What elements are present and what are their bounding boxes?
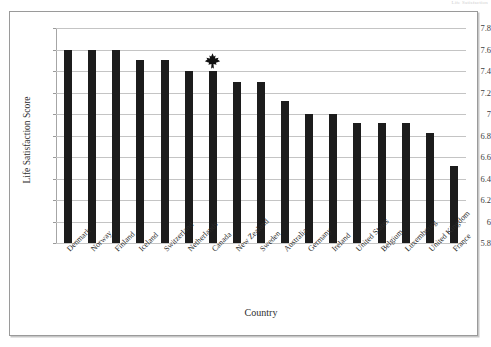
bar	[281, 101, 289, 243]
y-tick-mark	[53, 200, 56, 201]
chart-page: Life Satisfaction Life Satisfaction Scor…	[0, 0, 491, 347]
bar	[161, 60, 169, 243]
y-tick-mark	[53, 28, 56, 29]
y-tick-mark	[53, 179, 56, 180]
y-tick-label: 7.6	[445, 45, 491, 55]
y-tick-mark	[53, 243, 56, 244]
plot-area	[56, 28, 466, 243]
bar	[112, 50, 120, 244]
bar	[64, 50, 72, 244]
y-tick-label: 6.6	[445, 152, 491, 162]
bar	[185, 71, 193, 243]
bar	[402, 123, 410, 243]
y-tick-label: 7.2	[445, 88, 491, 98]
bar	[136, 60, 144, 243]
bar	[233, 82, 241, 243]
x-axis-title: Country	[56, 307, 466, 318]
y-tick-mark	[53, 157, 56, 158]
y-tick-label: 7.8	[445, 23, 491, 33]
y-tick-label: 7	[445, 109, 491, 119]
y-axis: Life Satisfaction Score	[0, 0, 56, 347]
gridline	[56, 28, 466, 29]
y-tick-mark	[53, 114, 56, 115]
y-tick-mark	[53, 71, 56, 72]
bar	[88, 50, 96, 244]
bar	[209, 71, 217, 243]
y-tick-label: 6.2	[445, 195, 491, 205]
bar	[353, 123, 361, 243]
bar	[329, 114, 337, 243]
y-tick-mark	[53, 50, 56, 51]
maple-leaf-icon	[204, 52, 221, 70]
y-tick-mark	[53, 222, 56, 223]
bar	[305, 114, 313, 243]
y-tick-label: 6.4	[445, 174, 491, 184]
y-axis-title: Life Satisfaction Score	[22, 50, 32, 230]
running-header: Life Satisfaction	[392, 0, 488, 6]
y-tick-label: 6.8	[445, 131, 491, 141]
y-tick-mark	[53, 93, 56, 94]
y-tick-label: 7.4	[445, 66, 491, 76]
y-tick-mark	[53, 136, 56, 137]
